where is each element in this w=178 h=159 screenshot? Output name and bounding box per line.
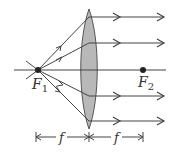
converging-lens [81,9,98,129]
focal-point-1-label: F1 [31,76,48,94]
focal-point-2-label: F2 [137,74,154,92]
dimension-left-label: f [58,130,66,145]
focal-point-2 [140,67,146,73]
lens-diagram: F1 F2 f f [0,0,178,159]
focal-point-1 [35,67,41,73]
dimension-markers [36,132,143,142]
diagram-canvas: F1 F2 f f [0,0,178,159]
dimension-right-label: f [113,130,121,145]
refracted-rays [89,13,164,125]
